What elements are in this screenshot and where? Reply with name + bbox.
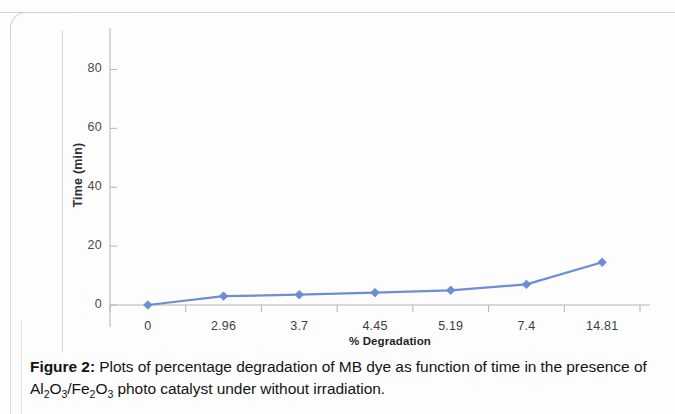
series-data-point-marker [371, 288, 380, 297]
figure-caption-text-5: photo catalyst under without irradiation… [113, 380, 385, 397]
line-chart [62, 18, 662, 358]
y-tick-label: 60 [62, 120, 102, 134]
y-axis-title: Time (min) [71, 143, 85, 208]
figure-caption-text-2: O [50, 380, 62, 397]
series-data-point-marker [219, 292, 228, 301]
page-left-rule [10, 40, 11, 414]
series-data-point-marker [144, 301, 153, 310]
figure-caption: Figure 2: Plots of percentage degradatio… [30, 356, 655, 402]
chart-axes [110, 28, 650, 327]
x-tick-label: 2.96 [194, 319, 254, 333]
chart-plot-area [62, 18, 662, 358]
series-line [148, 262, 602, 305]
series-data-point-marker [295, 290, 304, 299]
x-tick-label: 4.45 [345, 319, 405, 333]
page-column-rule [21, 320, 22, 414]
chart-series-group [144, 258, 607, 309]
page-top-rule [0, 12, 675, 13]
figure-caption-text-3: /Fe [67, 380, 89, 397]
series-data-point-marker [522, 280, 531, 289]
x-tick-label: 0 [118, 319, 178, 333]
series-data-point-marker [446, 286, 455, 295]
x-tick-label: 5.19 [421, 319, 481, 333]
x-tick-label: 7.4 [496, 319, 556, 333]
figure-caption-label: Figure 2: [30, 358, 95, 375]
series-data-point-marker [598, 258, 607, 267]
y-tick-label: 20 [62, 238, 102, 252]
x-tick-label: 3.7 [269, 319, 329, 333]
y-tick-label: 80 [62, 61, 102, 75]
x-tick-label: 14.81 [572, 319, 632, 333]
y-tick-label: 0 [62, 297, 102, 311]
y-tick-label: 40 [62, 179, 102, 193]
x-axis-title: % Degradation [349, 335, 431, 347]
figure-caption-text-4: O [95, 380, 107, 397]
page-frame-corner [10, 12, 70, 56]
